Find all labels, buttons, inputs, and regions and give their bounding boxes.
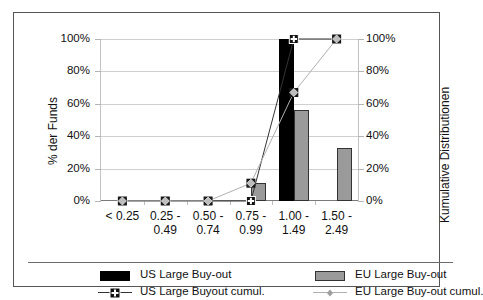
left-axis-tick-label: 0%	[73, 195, 90, 207]
plus-square-icon	[108, 286, 122, 300]
cumulative-lines-layer	[101, 39, 358, 201]
legend-label: US Large Buyout cumul.	[140, 285, 265, 297]
left-axis-tick-label: 100%	[61, 33, 90, 45]
left-axis-tick-label: 80%	[67, 65, 90, 77]
diamond-icon	[323, 286, 337, 300]
left-axis-tick-label: 60%	[67, 98, 90, 110]
category-separator	[230, 201, 231, 205]
marker-us-4	[289, 35, 298, 44]
left-axis-tick-label: 40%	[67, 130, 90, 142]
left-axis-tick	[95, 201, 101, 202]
x-category-label-5: 1.50 -2.49	[309, 209, 364, 237]
right-axis-title: Kumulative Distributionen	[438, 87, 452, 223]
right-axis-tick	[358, 39, 364, 40]
left-axis-tick-label: 20%	[67, 163, 90, 175]
legend-swatch-eu-bar	[315, 271, 345, 281]
right-axis-tick-label: 80%	[366, 65, 389, 77]
marker-eu-4	[289, 88, 298, 97]
marker-us-3	[246, 197, 255, 206]
marker-eu-3	[246, 179, 255, 188]
right-axis-tick-label: 0%	[366, 195, 383, 207]
legend-key-us-cumulative	[96, 286, 134, 298]
marker-eu-1	[161, 197, 170, 206]
right-axis-tick-label: 40%	[366, 130, 389, 142]
left-axis-title: % der Funds	[46, 97, 60, 165]
line-us-cumulative	[122, 39, 336, 201]
category-separator	[187, 201, 188, 205]
category-separator	[315, 201, 316, 205]
right-axis-tick	[358, 201, 364, 202]
plot-area	[101, 39, 358, 201]
chart-legend: US Large Buy-outEU Large Buy-outUS Large…	[28, 262, 453, 300]
category-separator	[272, 201, 273, 205]
right-axis-tick-label: 100%	[366, 33, 395, 45]
category-separator	[144, 201, 145, 205]
legend-label: EU Large Buy-out cumul.	[355, 285, 483, 297]
legend-label: US Large Buy-out	[140, 268, 231, 280]
legend-key-eu-bar	[311, 269, 349, 281]
right-axis-tick-label: 20%	[366, 163, 389, 175]
x-label-line: 2.49	[309, 223, 364, 237]
legend-key-eu-cumulative	[311, 286, 349, 298]
chart-frame: % der Funds Kumulative Distributionen 0%…	[13, 12, 440, 287]
right-axis-line	[358, 39, 359, 201]
line-eu-cumulative	[122, 39, 336, 201]
right-axis-tick	[358, 169, 364, 170]
right-axis-tick	[358, 136, 364, 137]
x-label-line: 1.50 -	[309, 209, 364, 223]
marker-eu-2	[204, 197, 213, 206]
legend-label: EU Large Buy-out	[355, 268, 446, 280]
x-axis-category-labels: < 0.250.25 -0.490.50 -0.740.75 -0.991.00…	[101, 209, 358, 251]
marker-eu-0	[118, 197, 127, 206]
right-axis-tick	[358, 104, 364, 105]
right-axis-tick-label: 60%	[366, 98, 389, 110]
legend-key-us-bar	[96, 269, 134, 281]
marker-eu-5	[332, 35, 341, 44]
legend-swatch-us-bar	[100, 271, 130, 281]
right-axis-tick	[358, 71, 364, 72]
